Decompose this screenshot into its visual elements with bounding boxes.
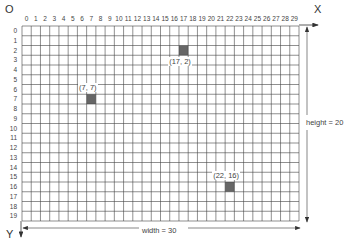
- point-coordinate-label: (17, 2): [168, 57, 192, 66]
- filled-cell: [87, 94, 96, 104]
- height-dimension-label: height = 20: [305, 118, 344, 127]
- filled-cell: [225, 182, 234, 192]
- width-dimension-label: width = 30: [141, 226, 177, 235]
- point-coordinate-label: (7, 7): [78, 83, 98, 92]
- filled-cell: [179, 46, 188, 56]
- point-coordinate-label: (22, 16): [212, 171, 240, 180]
